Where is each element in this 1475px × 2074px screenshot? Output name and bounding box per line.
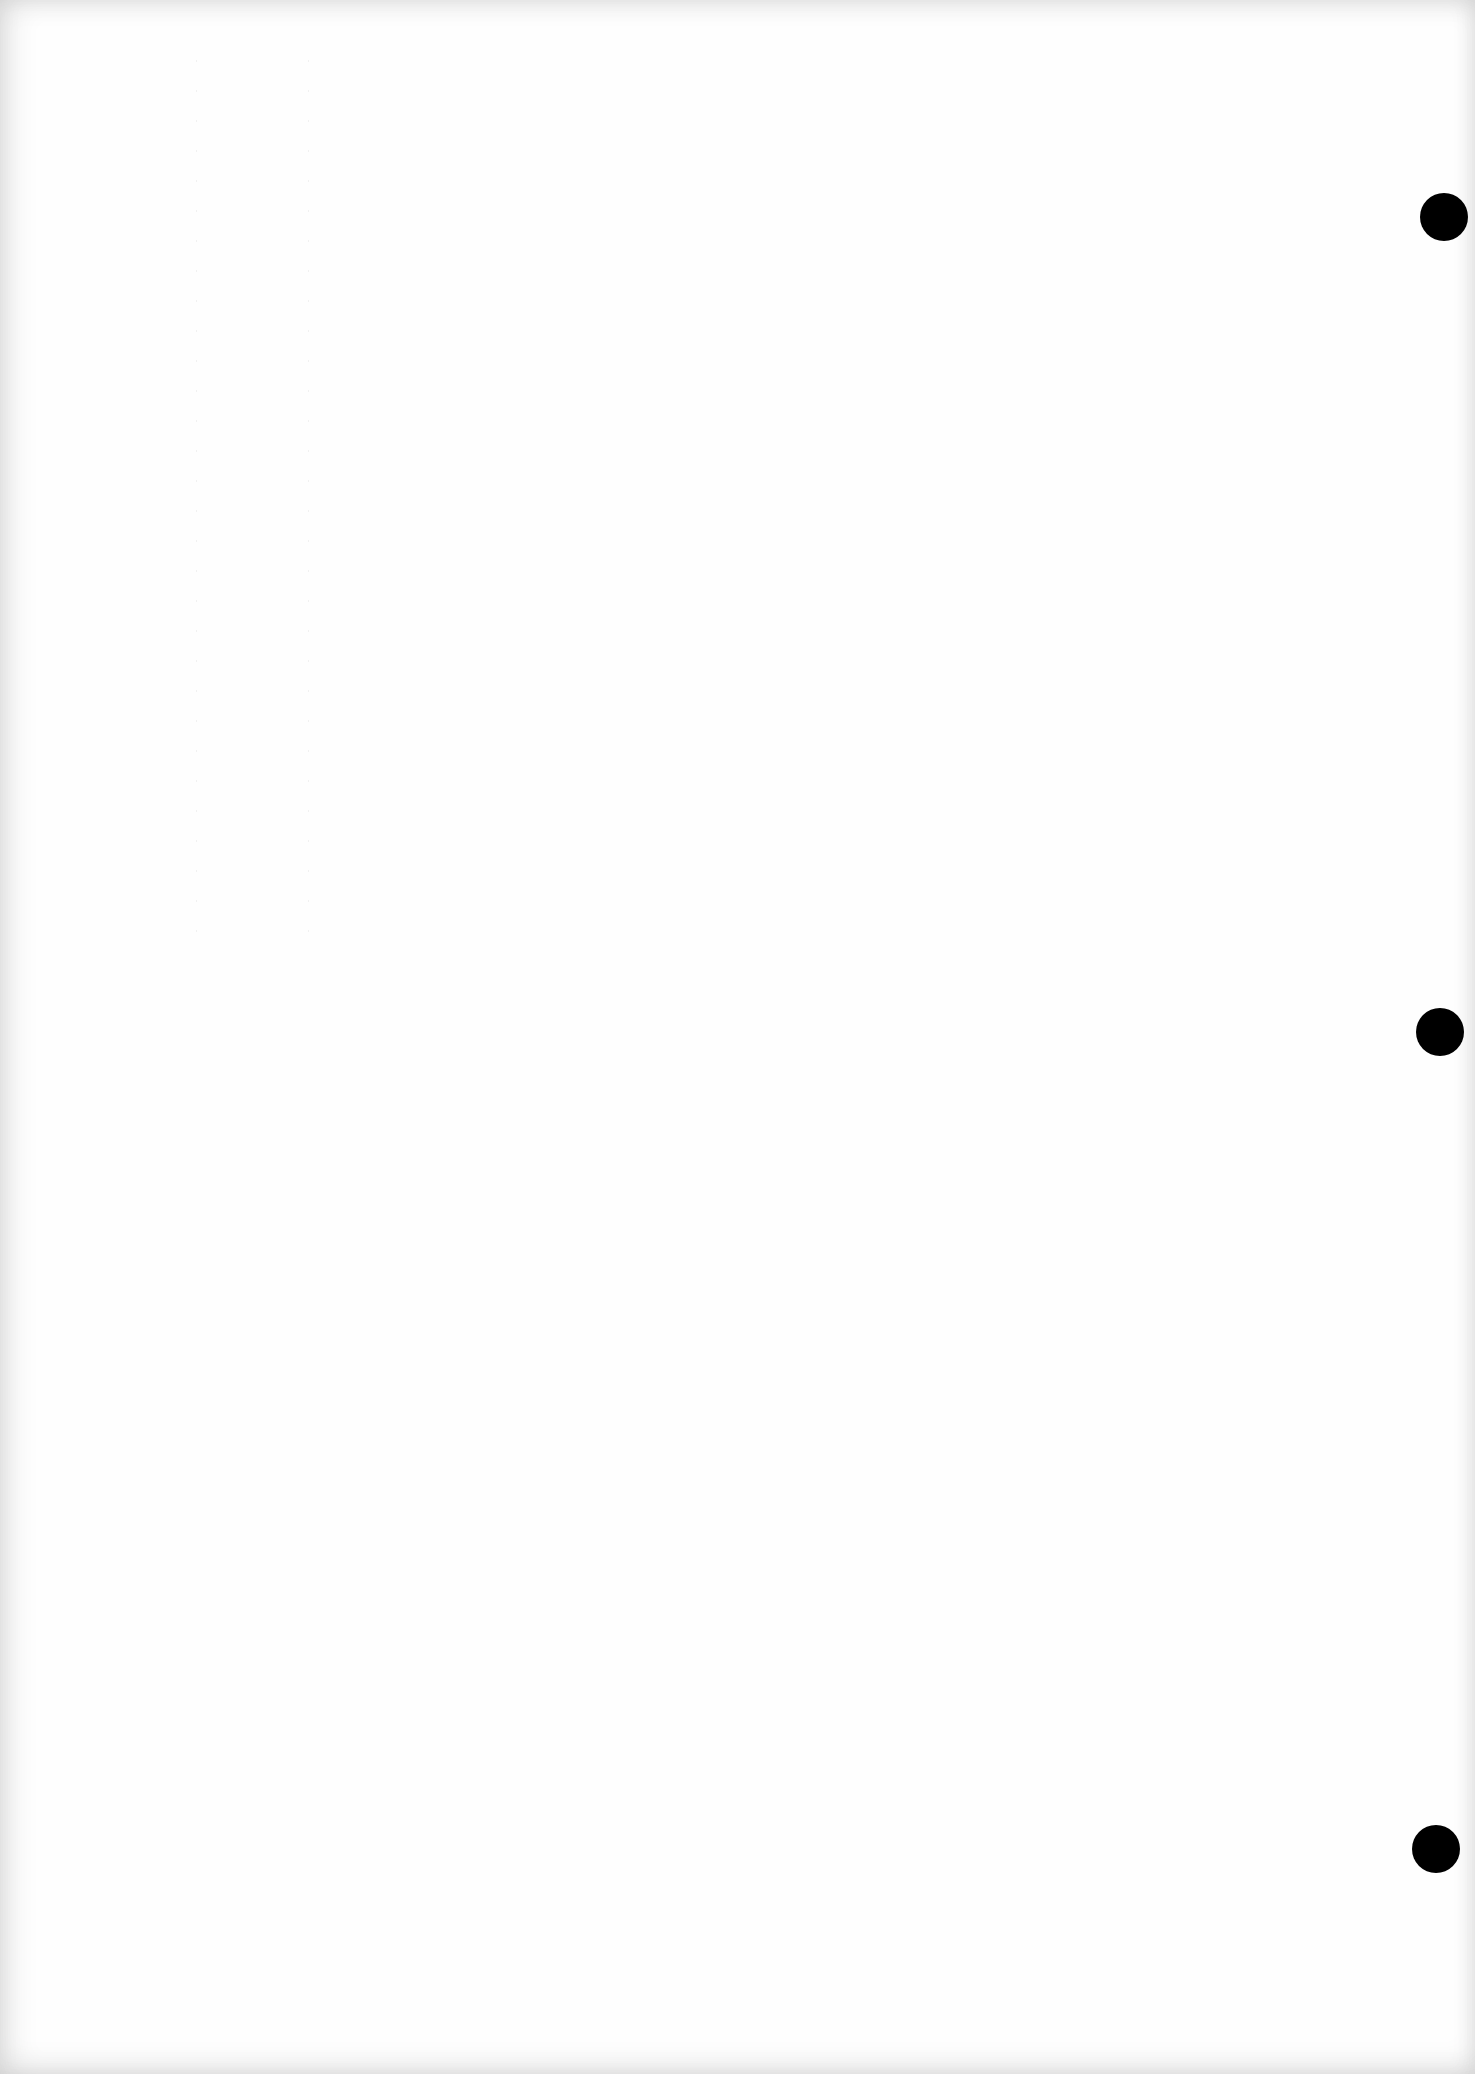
punch-hole-top bbox=[1420, 193, 1468, 241]
bleed-through-mark bbox=[308, 60, 309, 960]
punch-hole-bottom bbox=[1412, 1825, 1460, 1873]
bleed-through-mark bbox=[196, 60, 197, 960]
blank-page bbox=[0, 0, 1475, 2074]
punch-hole-middle bbox=[1416, 1008, 1464, 1056]
